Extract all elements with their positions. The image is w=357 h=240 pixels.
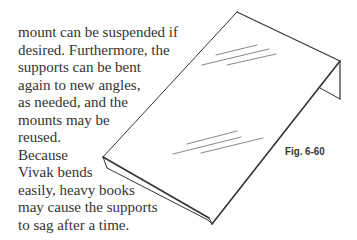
text-line: Because xyxy=(18,147,178,165)
text-line: may cause the supports xyxy=(18,199,178,217)
rear-leg-bottom xyxy=(320,88,340,99)
text-line: Vivak bends xyxy=(18,164,178,182)
right-front-edge xyxy=(212,61,340,224)
text-line: mount can be suspended if xyxy=(18,24,178,42)
text-line: to sag after a time. xyxy=(18,217,178,235)
text-line: desired. Furthermore, the xyxy=(18,42,178,60)
figure-caption: Fig. 6-60 xyxy=(285,145,325,157)
text-line: mounts may be xyxy=(18,112,178,130)
text-line: again to new angles, xyxy=(18,77,178,95)
text-line: reused. xyxy=(18,129,178,147)
body-text: mount can be suspended if desired. Furth… xyxy=(18,24,178,234)
top-back-edge xyxy=(237,12,340,61)
text-line: easily, heavy books xyxy=(18,182,178,200)
text-line: supports can be bent xyxy=(18,59,178,77)
text-line: as needed, and the xyxy=(18,94,178,112)
